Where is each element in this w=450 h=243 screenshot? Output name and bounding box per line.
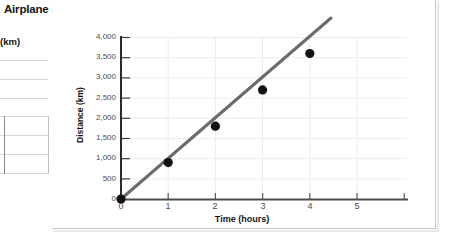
table-row [0, 116, 49, 136]
x-axis-title: Time (hours) [182, 214, 302, 224]
data-point [164, 158, 173, 167]
y-tick-label: 0 [82, 194, 116, 203]
y-tick-label: 2,000 [82, 113, 116, 122]
y-tick-label: 1,000 [82, 153, 116, 162]
table-column-header: (km) [0, 36, 20, 47]
table-rule [0, 98, 48, 99]
table-row [0, 135, 49, 155]
y-tick-label: 2,500 [82, 93, 116, 102]
horizontal-gridlines [121, 38, 407, 179]
data-point [305, 49, 314, 58]
table-rule [0, 60, 48, 61]
table-rule [0, 79, 48, 80]
y-tick-label: 500 [82, 174, 116, 183]
x-tick-label: 3 [256, 201, 270, 211]
panel-bottom-shadow [53, 230, 437, 232]
y-tick-label: 4,000 [82, 32, 116, 41]
table-row [0, 154, 49, 174]
y-axis-ticks [121, 38, 130, 179]
y-axis-title: Distance (km) [75, 80, 85, 150]
x-tick-label: 5 [350, 201, 364, 211]
page-root: Airplane Distance Traveled Compared to T… [0, 0, 450, 243]
panel-right-shadow [437, 1, 439, 232]
x-tick-label: 1 [161, 201, 175, 211]
side-data-table: (km) [0, 34, 48, 194]
y-tick-label: 3,500 [82, 52, 116, 61]
chart-plot-area: 4,000 3,500 3,000 2,500 2,000 1,500 1,00… [52, 0, 436, 229]
x-tick-label: 4 [303, 201, 317, 211]
x-tick-label: 0 [114, 201, 128, 211]
data-point [211, 122, 220, 131]
data-line-series-1 [121, 18, 331, 199]
data-point [258, 85, 267, 94]
chart-panel: 4,000 3,500 3,000 2,500 2,000 1,500 1,00… [52, 0, 436, 229]
x-tick-label: 2 [208, 201, 222, 211]
y-tick-label: 3,000 [82, 72, 116, 81]
y-tick-label: 1,500 [82, 133, 116, 142]
x-axis-ticks [168, 193, 404, 199]
